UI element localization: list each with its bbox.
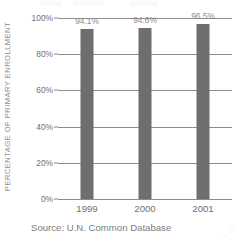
y-tick-mark (54, 126, 58, 127)
y-tick-label: 40% (36, 122, 53, 132)
x-axis-category-label: 2000 (134, 203, 155, 214)
page-corner-artifact (222, 223, 238, 239)
y-tick-mark (54, 199, 58, 200)
x-axis-category-label: 2001 (192, 203, 213, 214)
x-axis-category-label: 1999 (76, 203, 97, 214)
y-tick-label: 20% (36, 158, 53, 168)
y-tick-mark (54, 90, 58, 91)
bar-value-label: 94.6% (133, 15, 157, 25)
y-tick-mark (54, 54, 58, 55)
bar-value-label: 96.5% (191, 11, 215, 21)
y-tick-mark (54, 18, 58, 19)
bar (139, 28, 152, 199)
y-tick-label: 80% (36, 49, 53, 59)
y-tick-label: 60% (36, 85, 53, 95)
bar-chart-figure: PERCENTAGE OF PRIMARY ENROLLMENT 0%20%40… (0, 0, 241, 241)
y-axis-title: PERCENTAGE OF PRIMARY ENROLLMENT (0, 0, 16, 212)
bar (197, 24, 210, 199)
y-axis-title-label: PERCENTAGE OF PRIMARY ENROLLMENT (4, 21, 13, 190)
plot-area: 0%20%40%60%80%100% 94.1%94.6%96.5% 19992… (58, 18, 232, 199)
gridline (58, 199, 232, 200)
y-tick-label: 100% (32, 13, 53, 23)
cropped-title-artifact (40, 1, 190, 6)
y-tick-mark (54, 162, 58, 163)
bar (81, 29, 94, 199)
source-caption: Source: U.N. Common Database (31, 222, 171, 233)
y-tick-label: 0% (41, 194, 53, 204)
bar-value-label: 94.1% (75, 16, 99, 26)
